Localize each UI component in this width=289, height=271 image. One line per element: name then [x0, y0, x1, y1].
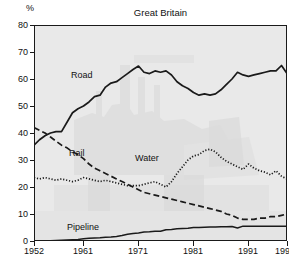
x-label-1991: 1991 — [228, 246, 268, 256]
y-label-10: 10 — [6, 209, 28, 219]
x-label-1981: 1981 — [173, 246, 213, 256]
series-label-pipeline: Pipeline — [66, 222, 100, 232]
series-label-water: Water — [134, 153, 160, 163]
series-path-rail — [34, 128, 287, 220]
y-label-30: 30 — [6, 155, 28, 165]
y-tick-70 — [30, 52, 35, 53]
series-lines — [34, 25, 287, 241]
y-label-80: 80 — [6, 20, 28, 30]
y-tick-30 — [30, 160, 35, 161]
y-tick-50 — [30, 106, 35, 107]
y-label-0: 0 — [6, 236, 28, 246]
x-label-1971: 1971 — [118, 246, 158, 256]
y-label-60: 60 — [6, 74, 28, 84]
y-tick-20 — [30, 187, 35, 188]
plot-area — [34, 25, 287, 241]
y-axis-unit-label: % — [26, 3, 34, 13]
x-label-1998: 1998 — [265, 246, 289, 256]
y-label-70: 70 — [6, 47, 28, 57]
chart-figure: % Great Britain — [0, 0, 289, 271]
x-label-1961: 1961 — [63, 246, 103, 256]
y-label-20: 20 — [6, 182, 28, 192]
y-label-50: 50 — [6, 101, 28, 111]
series-label-road: Road — [70, 70, 94, 80]
y-tick-80 — [30, 25, 35, 26]
y-label-40: 40 — [6, 128, 28, 138]
y-tick-10 — [30, 214, 35, 215]
series-label-rail: Rail — [68, 148, 86, 158]
y-tick-60 — [30, 79, 35, 80]
x-label-1952: 1952 — [14, 246, 54, 256]
y-tick-40 — [30, 133, 35, 134]
chart-title: Great Britain — [34, 7, 287, 18]
